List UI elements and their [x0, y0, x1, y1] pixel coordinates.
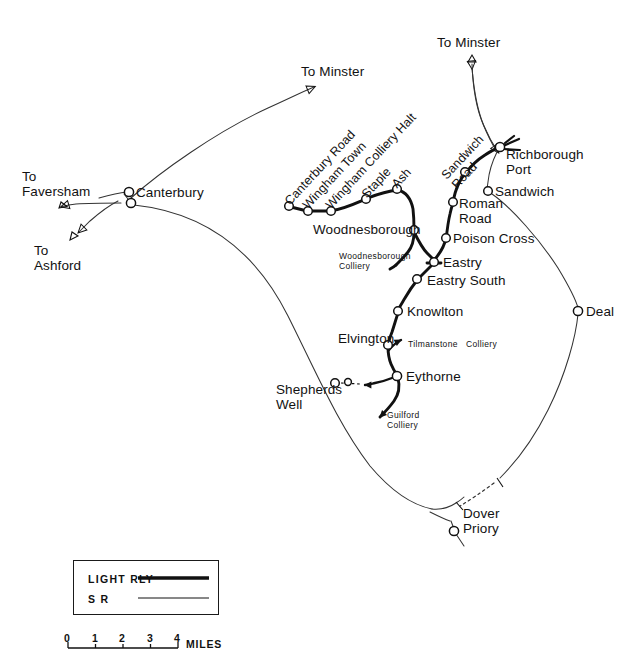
- label-knowlton: Knowlton: [407, 304, 463, 319]
- sr-line-deal-dover: [500, 314, 578, 478]
- sr-line-dover-tunnel-dotted: [460, 483, 494, 506]
- sr-line-sandwich-deal: [492, 194, 578, 308]
- label-richborough-port: Richborough Port: [506, 147, 584, 177]
- label-eastry-south: Eastry South: [427, 273, 506, 288]
- label-guilford-colliery: Guilford Colliery: [387, 411, 420, 430]
- station-circle-deal: [573, 306, 582, 315]
- label-to-minster-west: To Minster: [301, 64, 364, 79]
- scale-unit-label: MILES: [186, 638, 222, 650]
- station-circle-canterbury-a: [124, 187, 133, 196]
- station-circle-eastry-south: [413, 275, 422, 284]
- label-woodnesborough-colliery: Woodnesborough Colliery: [339, 252, 411, 271]
- station-circle-poison-cross: [442, 234, 451, 243]
- station-circle-dover-priory: [449, 526, 458, 535]
- legend-panel: [73, 560, 219, 615]
- label-dover-priory: Dover Priory: [463, 506, 500, 536]
- station-circle-eythorne: [392, 371, 401, 380]
- tunnel-mark-south: [456, 502, 463, 510]
- label-eastry: Eastry: [443, 255, 482, 270]
- label-eythorne: Eythorne: [406, 369, 461, 384]
- label-tilmanstone-colliery: Tilmanstone Colliery: [408, 340, 497, 350]
- legend-item-sr-label: S R: [88, 593, 109, 605]
- station-circle-sandwich: [484, 187, 493, 196]
- sr-line-canterbury-curve: [99, 192, 127, 198]
- sr-line-dover-priory-junction: [432, 497, 464, 509]
- scale-tick-label-4: 4: [174, 632, 180, 644]
- label-to-faversham: To Faversham: [22, 169, 90, 199]
- label-sandwich: Sandwich: [495, 184, 554, 199]
- tunnel-mark-north: [497, 478, 503, 487]
- arrowhead-to-faversham: [59, 202, 67, 208]
- sr-line-to-ashford: [79, 201, 118, 232]
- railway-map: To Minster To Minster To Faversham To As…: [0, 0, 637, 661]
- station-circle-roman-road: [449, 198, 458, 207]
- sr-network-lines: [62, 64, 578, 546]
- label-poison-cross: Poison Cross: [453, 231, 534, 246]
- scale-tick-label-1: 1: [92, 632, 98, 644]
- label-elvington: Elvington: [338, 331, 394, 346]
- scale-tick-label-2: 2: [119, 632, 125, 644]
- lr-line-elvington-eythorne: [388, 347, 397, 375]
- arrowhead-to-minster-north: [468, 55, 476, 62]
- label-shepherds-well: Shepherds Well: [276, 382, 342, 412]
- label-woodnesborough: Woodnesborough: [313, 222, 421, 237]
- station-circle-knowlton: [394, 307, 403, 316]
- lr-line-eythorne-west: [365, 378, 392, 385]
- station-circle-richborough-port: [495, 142, 504, 151]
- legend-item-light-rly-label: LIGHT RLY: [88, 573, 154, 585]
- sr-line-dover-priory-stub: [430, 512, 450, 521]
- scale-tick-label-0: 0: [64, 632, 70, 644]
- label-roman-road: Roman Road: [459, 196, 503, 226]
- station-circle-shepherds-well-b: [345, 379, 352, 386]
- label-canterbury: Canterbury: [136, 185, 204, 200]
- scale-tick-label-3: 3: [147, 632, 153, 644]
- station-circle-eastry: [430, 258, 439, 267]
- station-circle-canterbury-b: [126, 198, 135, 207]
- arrowhead-to-ashford: [70, 232, 78, 240]
- sr-line-canterbury-minster: [131, 87, 314, 198]
- label-to-ashford: To Ashford: [34, 243, 81, 273]
- label-to-minster-north: To Minster: [437, 35, 500, 50]
- label-deal: Deal: [586, 304, 614, 319]
